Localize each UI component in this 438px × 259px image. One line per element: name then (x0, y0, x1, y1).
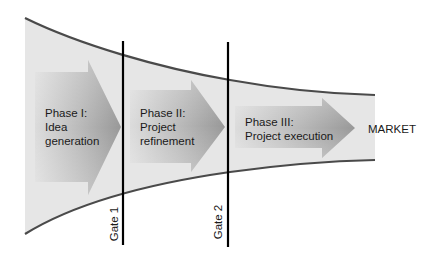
gate-1-label: Gate 1 (108, 207, 120, 242)
stage-gate-funnel-diagram: Phase I: Idea generation Phase II: Proje… (0, 0, 438, 259)
gate-2-label: Gate 2 (212, 205, 224, 240)
market-label: MARKET (368, 123, 416, 135)
